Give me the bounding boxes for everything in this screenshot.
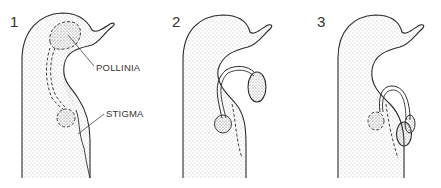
orchid-pollination-figure: 1 2 3 POLLINIA STIGMA [0, 0, 441, 188]
figure-drawing [0, 0, 441, 188]
panel-1-drawing [22, 13, 114, 178]
pollinia-label: POLLINIA [96, 63, 140, 73]
panel-2-drawing [183, 15, 272, 178]
panel-3-drawing [338, 15, 424, 178]
stigma-label: STIGMA [106, 109, 144, 119]
column-outline [338, 15, 424, 178]
panel-number-3: 3 [317, 14, 325, 29]
panel-number-1: 1 [10, 14, 18, 29]
panel-number-2: 2 [172, 14, 180, 29]
